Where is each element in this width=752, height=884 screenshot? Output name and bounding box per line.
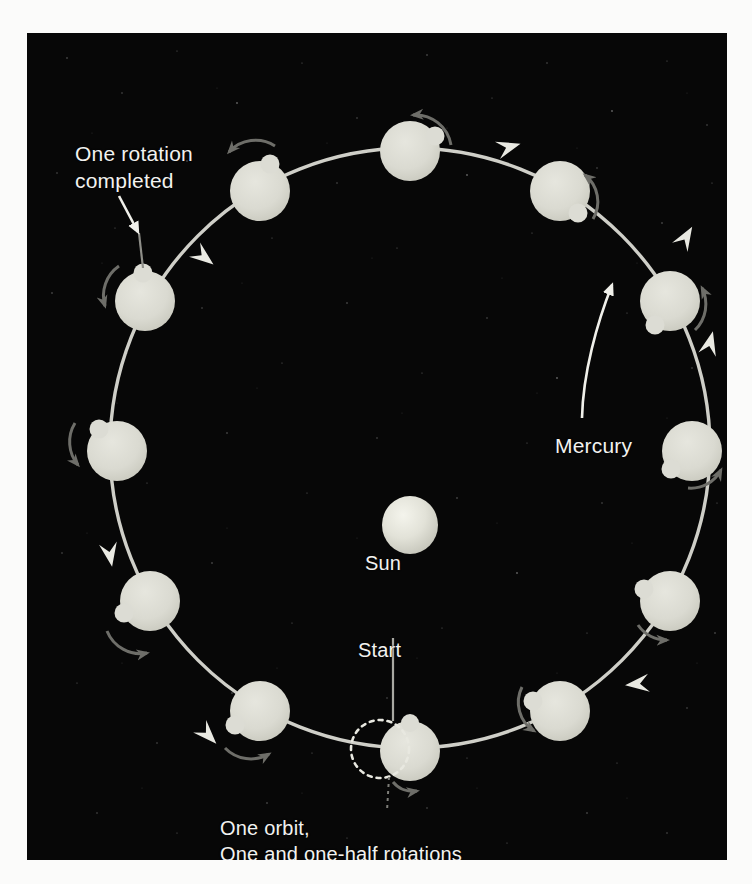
rotation-marker-bump	[426, 127, 445, 146]
rotation-marker-bump	[569, 204, 588, 223]
planet-body	[120, 571, 180, 631]
rotation-marker-bump	[635, 580, 654, 599]
marker-stem	[139, 233, 143, 268]
rotation-marker-bump	[90, 420, 109, 439]
sun-body	[382, 496, 438, 554]
rotation-marker-bump	[662, 460, 681, 479]
mercury-position-9	[70, 420, 147, 482]
planet-body	[530, 681, 590, 741]
rotation-arrow	[107, 631, 147, 654]
leader-mercury	[582, 285, 612, 418]
rotation-marker-bump	[646, 316, 665, 335]
mercury-position-one-rotation-completed	[103, 233, 175, 331]
rotation-marker-bump	[524, 692, 543, 711]
page-background: One rotation completed Mercury Sun Start…	[0, 0, 752, 884]
leader-one-rotation	[119, 196, 138, 232]
mercury-position-5	[530, 161, 598, 223]
planet-body	[640, 571, 700, 631]
planet-body	[230, 161, 290, 221]
mercury-position-3	[662, 421, 723, 488]
label-caption-one-orbit: One orbit, One and one-half rotations	[220, 816, 462, 860]
mercury-position-2	[635, 571, 701, 640]
figure-panel: One rotation completed Mercury Sun Start…	[27, 33, 727, 860]
rotation-marker-bump	[115, 604, 134, 623]
mercury-position-4	[640, 271, 706, 335]
mercury-position-1	[518, 681, 590, 741]
label-start: Start	[358, 638, 401, 664]
mercury-position-7	[229, 140, 290, 221]
sun	[382, 496, 438, 554]
rotation-arrow	[393, 782, 417, 791]
label-sun: Sun	[365, 551, 401, 577]
mercury-position-start	[351, 714, 440, 791]
mercury-position-10	[107, 571, 180, 654]
label-one-rotation-completed: One rotation completed	[75, 141, 193, 195]
rotation-marker-bump	[226, 716, 245, 735]
rotation-marker-bump	[401, 714, 419, 732]
rotation-arrow	[70, 423, 78, 465]
rotation-arrow	[229, 140, 275, 152]
leader-caption	[387, 777, 389, 811]
rotation-marker-bump	[261, 155, 280, 174]
label-mercury: Mercury	[555, 433, 632, 460]
rotation-arrow	[225, 748, 269, 759]
